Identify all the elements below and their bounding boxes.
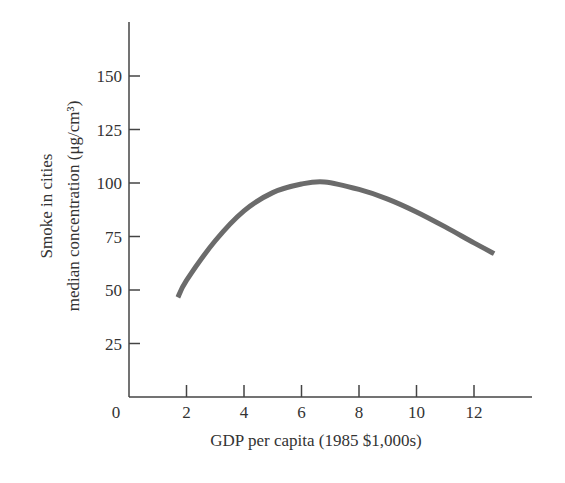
- y-tick-label: 125: [97, 121, 123, 140]
- x-tick-label: 10: [408, 403, 425, 422]
- y-tick-label: 25: [105, 335, 122, 354]
- y-tick-label: 50: [105, 281, 122, 300]
- x-ticks: 24681012: [182, 385, 482, 422]
- y-axis-label-line1: Smoke in cities: [37, 154, 56, 259]
- y-tick-label: 75: [105, 228, 122, 247]
- x-axis-label: GDP per capita (1985 $1,000s): [210, 431, 421, 450]
- x-tick-label: 12: [466, 403, 483, 422]
- chart: 24681012 255075100125150 0 GDP per capit…: [0, 0, 565, 483]
- x-tick-label: 2: [182, 403, 191, 422]
- axes: [129, 22, 532, 397]
- data-line: [178, 182, 494, 298]
- x-tick-label: 8: [355, 403, 364, 422]
- x-tick-label: 6: [297, 403, 306, 422]
- y-ticks: 255075100125150: [97, 67, 141, 354]
- y-tick-label: 100: [97, 174, 123, 193]
- y-tick-label: 150: [97, 67, 123, 86]
- x-tick-label: 4: [240, 403, 249, 422]
- y-axis-label-line2: median concentration (μg/cm³): [64, 101, 83, 312]
- origin-label: 0: [112, 403, 121, 422]
